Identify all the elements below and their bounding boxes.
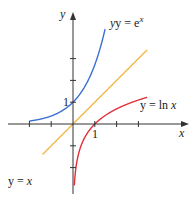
legend-identity: y = x bbox=[8, 174, 33, 188]
y-tick-label-1: 1 bbox=[63, 95, 69, 109]
y-axis-arrow bbox=[70, 12, 76, 20]
y-axis-label: y bbox=[59, 7, 66, 21]
chart: x y 1 1 yy = ex y = ln x y = x bbox=[0, 0, 195, 199]
x-tick-label-1: 1 bbox=[92, 127, 98, 141]
series-line-log bbox=[74, 97, 147, 185]
legend-ln: y = ln x bbox=[140, 98, 177, 112]
legend-exp: yy = ex bbox=[109, 14, 143, 30]
x-axis-label: x bbox=[178, 126, 185, 140]
